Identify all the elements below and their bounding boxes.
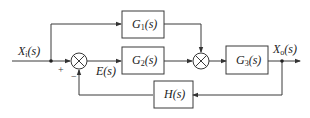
block-h-label: H(s) xyxy=(163,87,185,101)
g1-output-line xyxy=(164,24,201,52)
block-g3-label: G3(s) xyxy=(236,53,261,68)
branch-point-input xyxy=(49,59,53,63)
feedforward-branch-line xyxy=(51,24,121,61)
summing-junction-1 xyxy=(71,53,87,69)
input-label: Xi(s) xyxy=(17,44,40,59)
block-g2-label: G2(s) xyxy=(132,53,157,68)
error-label: E(s) xyxy=(95,64,116,78)
block-g1-label: G1(s) xyxy=(132,17,157,32)
output-label: Xo(s) xyxy=(272,42,297,57)
plus-sign: + xyxy=(58,64,64,75)
branch-point-output xyxy=(280,59,284,63)
block-diagram: Xi(s) + − E(s) G1(s) G2(s) G3(s) H(s) Xo… xyxy=(0,0,310,118)
minus-sign: − xyxy=(71,71,77,82)
summing-junction-2 xyxy=(193,53,209,69)
